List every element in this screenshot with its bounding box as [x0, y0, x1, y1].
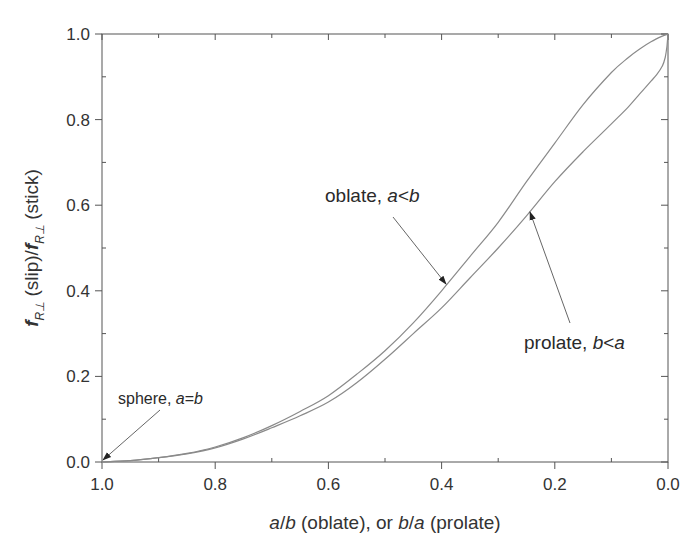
x-tick-label: 0.0	[656, 475, 680, 494]
y-tick-label: 0.2	[66, 367, 90, 386]
x-axis: 1.00.80.60.40.20.0	[90, 34, 680, 494]
x-tick-label: 0.4	[430, 475, 454, 494]
annotation-arrow-sphere	[103, 410, 160, 460]
x-tick-label: 0.2	[543, 475, 567, 494]
y-tick-label: 0.0	[66, 453, 90, 472]
x-axis-title: a/b (oblate), or b/a (prolate)	[269, 512, 500, 533]
y-tick-label: 1.0	[66, 25, 90, 44]
annotation-sphere: sphere, a=b	[118, 390, 203, 407]
y-axis-title: fR⊥ (slip)/fR⊥ (stick)	[21, 169, 47, 327]
y-tick-label: 0.6	[66, 196, 90, 215]
chart-figure: 1.00.80.60.40.20.0 0.00.20.40.60.81.0 ob…	[0, 0, 693, 546]
y-axis-title-text: fR⊥ (slip)/fR⊥ (stick)	[21, 169, 47, 327]
x-tick-label: 0.6	[317, 475, 341, 494]
y-tick-label: 0.8	[66, 111, 90, 130]
annotation-oblate: oblate, a<b	[325, 185, 420, 206]
x-tick-label: 0.8	[203, 475, 227, 494]
annotation-prolate: prolate, b<a	[524, 332, 625, 353]
annotation-arrow-oblate	[393, 217, 446, 284]
y-tick-label: 0.4	[66, 282, 90, 301]
annotations: oblate, a<bprolate, b<asphere, a=b	[103, 185, 625, 460]
x-tick-label: 1.0	[90, 475, 114, 494]
annotation-arrow-prolate	[530, 212, 570, 323]
